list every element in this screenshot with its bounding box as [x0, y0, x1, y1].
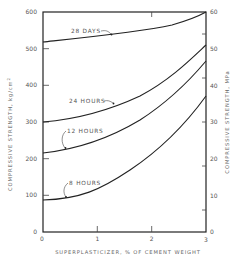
curve-24-hours — [43, 45, 206, 122]
x-axis-title: SUPERPLASTICIZER, % OF CEMENT WEIGHT — [55, 249, 201, 255]
x-tick-1: 1 — [95, 235, 99, 242]
y-tick-0: 0 — [33, 228, 37, 235]
y-right-tick-40: 40 — [210, 82, 218, 89]
x-ticks — [97, 12, 151, 232]
curve-12-hours — [43, 61, 206, 153]
right-y-ticks — [202, 34, 206, 210]
x-tick-0: 0 — [40, 235, 44, 242]
svg-text:COMPRESSIVE STRENGTH, MPa: COMPRESSIVE STRENGTH, MPa — [224, 70, 230, 173]
strength-chart: 0 100 200 300 400 500 600 0 10 20 30 40 … — [0, 0, 236, 263]
y-right-tick-0: 0 — [210, 228, 214, 235]
y-right-tick-10: 10 — [210, 192, 218, 199]
label-12-hours: 12 HOURS — [67, 128, 104, 134]
y-right-tick-20: 20 — [210, 155, 218, 162]
label-8-hours: 8 HOURS — [69, 180, 101, 186]
plot-frame — [43, 12, 206, 232]
y-right-tick-60: 60 — [210, 8, 218, 15]
y-axis-title-left: COMPRESSIVE STRENGTH, kg/cm2 — [6, 77, 15, 191]
x-tick-2: 2 — [150, 235, 154, 242]
label-28-days: 28 DAYS — [71, 28, 101, 34]
x-tick-labels: 0 1 2 3 — [40, 235, 208, 243]
right-y-tick-labels: 0 10 20 30 40 50 60 — [210, 8, 218, 235]
y-tick-600: 600 — [26, 8, 38, 15]
x-tick-3: 3 — [204, 236, 208, 243]
leader-12-hours — [62, 131, 66, 148]
svg-text:COMPRESSIVE STRENGTH, kg/cm2: COMPRESSIVE STRENGTH, kg/cm2 — [6, 77, 15, 191]
y-right-tick-30: 30 — [210, 118, 218, 125]
leader-8-hours — [64, 183, 68, 197]
y-tick-100: 100 — [26, 191, 38, 198]
y-tick-200: 200 — [26, 155, 38, 162]
y-axis-title-right: COMPRESSIVE STRENGTH, MPa — [224, 70, 230, 173]
y-tick-400: 400 — [26, 81, 38, 88]
y-tick-300: 300 — [26, 118, 38, 125]
leader-28-days — [101, 31, 111, 34]
y-right-tick-50: 50 — [210, 45, 218, 52]
left-y-tick-labels: 0 100 200 300 400 500 600 — [26, 8, 38, 235]
curve-28-days — [43, 12, 206, 42]
label-24-hours: 24 HOURS — [69, 98, 106, 104]
y-tick-500: 500 — [26, 45, 38, 52]
curve-8-hours — [43, 96, 206, 200]
